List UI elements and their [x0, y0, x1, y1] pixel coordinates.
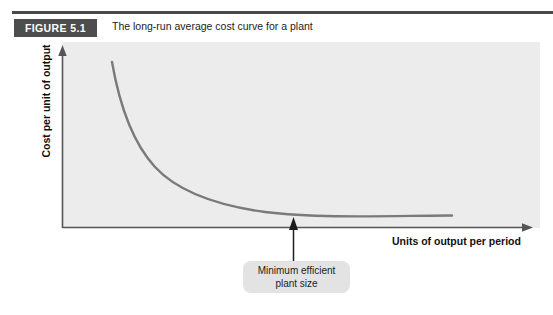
y-axis-arrowhead [58, 45, 66, 56]
figure-container: FIGURE 5.1 The long-run average cost cur… [0, 0, 553, 315]
lrac-curve [112, 62, 452, 216]
x-axis-title: Units of output per period [392, 235, 521, 247]
callout-line-1: Minimum efficient [258, 264, 336, 277]
y-axis-title: Cost per unit of output [40, 31, 52, 171]
callout-pointer-arrowhead [289, 217, 298, 230]
minimum-efficient-scale-callout: Minimum efficient plant size [243, 261, 350, 293]
callout-line-2: plant size [275, 277, 317, 290]
x-axis-arrowhead [522, 223, 533, 231]
